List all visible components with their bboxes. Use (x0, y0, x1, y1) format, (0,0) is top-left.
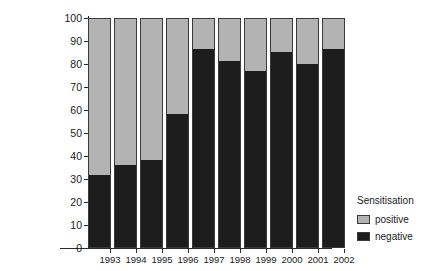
bar-1995 (140, 18, 163, 248)
legend-label: negative (375, 230, 413, 243)
bar-segment-negative (167, 114, 188, 247)
x-tick-label: 2002 (324, 254, 364, 266)
y-tick-label: 40 (0, 150, 82, 162)
legend-title: Sensitisation (357, 194, 435, 207)
x-tick-mark (344, 249, 345, 253)
y-tick-label: 60 (0, 104, 82, 116)
bar-segment-negative (271, 52, 292, 248)
legend-item-negative: negative (357, 229, 435, 244)
legend-swatch-negative (357, 232, 370, 241)
x-tick-mark (162, 249, 163, 253)
y-tick-label: 30 (0, 173, 82, 185)
bar-1994 (114, 18, 137, 248)
y-tick-label: 10 (0, 219, 82, 231)
y-tick-label: 50 (0, 127, 82, 139)
bar-segment-negative (193, 49, 214, 247)
bar-segment-negative (297, 64, 318, 247)
x-tick-mark (266, 249, 267, 253)
x-tick-mark (110, 249, 111, 253)
x-tick-mark (240, 249, 241, 253)
x-tick-mark (292, 249, 293, 253)
bar-segment-negative (245, 71, 266, 247)
legend-swatch-positive (357, 215, 370, 224)
bar-2001 (296, 18, 319, 248)
bar-segment-negative (89, 175, 110, 247)
bar-1999 (244, 18, 267, 248)
bar-segment-negative (141, 160, 162, 247)
bar-1997 (192, 18, 215, 248)
x-tick-mark (136, 249, 137, 253)
bar-1996 (166, 18, 189, 248)
x-tick-mark (188, 249, 189, 253)
bar-segment-negative (323, 49, 344, 247)
x-tick-mark (318, 249, 319, 253)
y-tick-label: 20 (0, 196, 82, 208)
bar-1993 (88, 18, 111, 248)
y-tick-label: 90 (0, 35, 82, 47)
legend-item-positive: positive (357, 212, 435, 227)
y-tick-label: 80 (0, 58, 82, 70)
bar-segment-negative (219, 61, 240, 247)
bar-2002 (322, 18, 345, 248)
y-tick-label: 100 (0, 12, 82, 24)
bar-segment-negative (115, 165, 136, 247)
y-tick-label: 70 (0, 81, 82, 93)
bar-2000 (270, 18, 293, 248)
y-tick-mark (84, 248, 88, 249)
chart-legend: Sensitisation positivenegative (357, 194, 435, 246)
x-tick-mark (214, 249, 215, 253)
y-tick-label: 0 (0, 242, 82, 254)
legend-label: positive (375, 213, 409, 226)
stacked-bar-chart: % transplants 0102030405060708090100 199… (0, 0, 435, 271)
legend-items: positivenegative (357, 212, 435, 244)
bar-1998 (218, 18, 241, 248)
plot-area (88, 18, 331, 248)
